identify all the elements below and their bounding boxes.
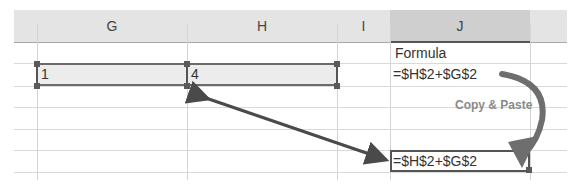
double-arrow-icon xyxy=(200,96,378,157)
curved-arrow-head-icon xyxy=(508,136,538,168)
copy-paste-label: Copy & Paste xyxy=(455,98,532,112)
annotation-arrows xyxy=(0,0,577,190)
spreadsheet-grid: G H I J 1 4 Formula =$H$2+$G$2 =$H$2+$G$… xyxy=(0,0,577,190)
